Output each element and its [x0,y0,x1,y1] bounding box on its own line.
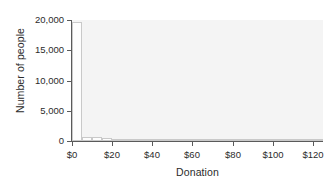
x-tick-mark [192,142,193,146]
histogram-bar [72,22,82,141]
y-tick-label: 15,000 [4,45,64,55]
y-tick-mark [67,141,71,142]
x-axis-title: Donation [72,166,323,178]
x-tick-label: $20 [92,149,132,160]
x-tick-label: $40 [132,149,172,160]
y-axis-spine [71,20,72,142]
y-tick-mark [67,50,71,51]
x-tick-mark [233,142,234,146]
x-tick-mark [72,142,73,146]
x-tick-label: $80 [213,149,253,160]
y-tick-label: 10,000 [4,76,64,86]
x-tick-label: $60 [172,149,212,160]
x-tick-mark [313,142,314,146]
histogram-figure: Number of people 05,00010,00015,00020,00… [0,0,333,183]
x-tick-mark [112,142,113,146]
y-tick-mark [67,20,71,21]
y-tick-label: 0 [4,136,64,146]
plot-area [72,20,323,141]
y-tick-label: 20,000 [4,15,64,25]
bar-series [72,20,323,141]
x-axis-spine [71,141,323,142]
x-tick-mark [273,142,274,146]
x-tick-mark [152,142,153,146]
y-tick-label: 5,000 [4,106,64,116]
x-tick-label: $100 [253,149,293,160]
x-tick-label: $0 [52,149,92,160]
y-tick-mark [67,81,71,82]
x-tick-label: $120 [293,149,333,160]
y-tick-mark [67,111,71,112]
